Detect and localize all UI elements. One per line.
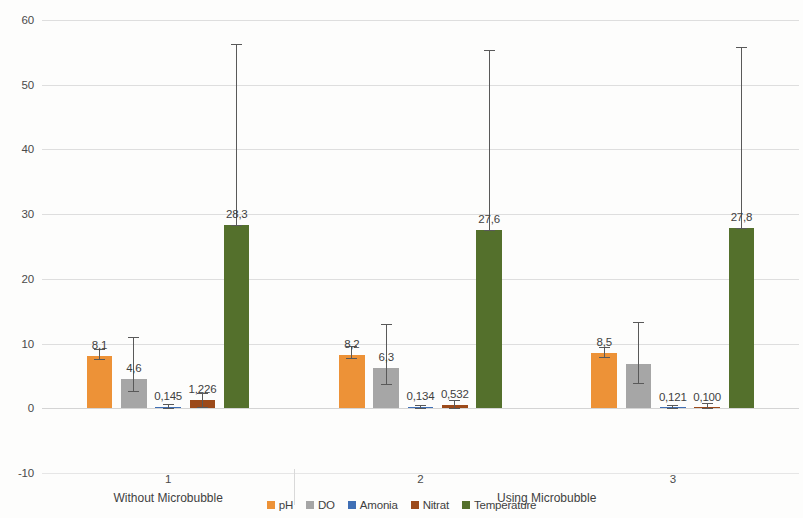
error-bar [236,44,237,225]
y-axis-tick-label: 0 [0,402,34,414]
error-bar-cap [231,225,242,226]
legend-item-ph[interactable]: pH [267,499,293,511]
data-label: 0,145 [154,390,182,402]
bar-temperature[interactable]: 27,8 [729,20,754,473]
error-bar-cap [415,405,426,406]
data-label: 27,6 [478,213,500,225]
error-bar-cap [163,404,174,405]
bar-rect [476,230,501,409]
bar-rect [224,225,249,408]
data-label: 0,134 [407,390,435,402]
legend-swatch-icon [267,501,275,509]
legend-item-label: Temperature [474,499,536,511]
bar-chart: 6050403020100-10 8,14,60,1451,22628,38,2… [0,0,803,518]
data-label: 6,3 [378,351,393,363]
bar-nitrat[interactable]: 1,226 [190,20,215,473]
y-axis-tick-label: 50 [0,79,34,91]
error-bar-cap [346,358,357,359]
plot-area: 6050403020100-10 8,14,60,1451,22628,38,2… [42,20,799,473]
category-tick-label: 2 [417,473,423,485]
bar-nitrat[interactable]: 0,100 [694,20,719,473]
error-bar-cap [163,408,174,409]
data-label: 0,100 [693,391,721,403]
y-axis-tick-label: 30 [0,208,34,220]
error-bar-cap [94,359,105,360]
data-label: 0,121 [659,391,687,403]
data-label: 28,3 [226,208,248,220]
legend-item-temperature[interactable]: Temperature [462,499,536,511]
data-label: 8,1 [92,339,107,351]
category-axis: 123Without MicrobubbleUsing Microbubble [42,473,799,501]
bar-rect [87,356,112,408]
legend-item-label: Amonia [360,499,398,511]
bar-nitrat[interactable]: 0,532 [442,20,467,473]
error-bar-cap [667,408,678,409]
y-axis-tick-label: -10 [0,467,34,479]
legend-item-nitrat[interactable]: Nitrat [411,499,449,511]
bar-do[interactable]: 4,6 [121,20,146,473]
bar-do[interactable] [626,20,651,473]
bar-temperature[interactable]: 28,3 [224,20,249,473]
error-bar-cap [381,384,392,385]
bar-do[interactable]: 6,3 [373,20,398,473]
legend-item-amonia[interactable]: Amonia [348,499,398,511]
error-bar-cap [484,50,495,51]
error-bar-cap [128,337,139,338]
data-label: 4,6 [126,362,141,374]
bar-group: 8,26,30,1340,53227,6 [294,20,546,473]
data-label: 8,2 [344,338,359,350]
error-bar-cap [197,407,208,408]
legend-swatch-icon [411,501,419,509]
error-bar [489,50,490,230]
data-label: 1,226 [189,383,217,395]
chart-legend: pHDOAmoniaNitratTemperature [0,499,803,511]
y-axis-tick-label: 10 [0,338,34,350]
error-bar-cap [633,322,644,323]
error-bar-cap [702,408,713,409]
error-bar-cap [736,228,747,229]
error-bar-cap [484,230,495,231]
error-bar-cap [449,408,460,409]
error-bar-cap [128,391,139,392]
error-bar-cap [633,383,644,384]
bar-rect [729,228,754,408]
y-axis-tick-label: 20 [0,273,34,285]
error-bar [638,322,639,383]
bar-amonia[interactable]: 0,134 [408,20,433,473]
bar-amonia[interactable]: 0,145 [155,20,180,473]
bar-ph[interactable]: 8,1 [87,20,112,473]
legend-item-label: Nitrat [423,499,449,511]
bar-amonia[interactable]: 0,121 [660,20,685,473]
error-bar-cap [599,357,610,358]
legend-item-label: pH [279,499,293,511]
bar-ph[interactable]: 8,2 [339,20,364,473]
bar-rect [339,355,364,408]
legend-swatch-icon [462,501,470,509]
data-label: 8,5 [596,336,611,348]
data-label: 27,8 [731,211,753,223]
category-tick-label: 1 [165,473,171,485]
legend-swatch-icon [348,501,356,509]
error-bar-cap [702,403,713,404]
category-tick-label: 3 [670,473,676,485]
bar-ph[interactable]: 8,5 [591,20,616,473]
y-axis-tick-label: 60 [0,14,34,26]
error-bar-cap [231,44,242,45]
error-bar-cap [667,405,678,406]
y-axis-tick-label: 40 [0,143,34,155]
error-bar [454,400,455,408]
error-bar [741,47,742,229]
legend-swatch-icon [306,501,314,509]
error-bar-cap [415,408,426,409]
legend-item-label: DO [318,499,335,511]
bar-group: 8,14,60,1451,22628,3 [42,20,294,473]
error-bar-cap [736,47,747,48]
data-label: 0,532 [441,388,469,400]
legend-item-do[interactable]: DO [306,499,335,511]
error-bar-cap [381,324,392,325]
error-bar-cap [449,400,460,401]
bar-rect [591,353,616,408]
bar-temperature[interactable]: 27,6 [476,20,501,473]
bar-group: 8,50,1210,10027,8 [547,20,799,473]
